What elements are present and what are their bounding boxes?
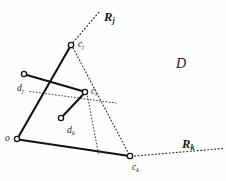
- label-ray-k-subscript: k: [191, 143, 195, 152]
- solid-lines-group: [18, 46, 130, 156]
- vertex-marker-cj: [68, 42, 73, 47]
- label-point-ci-subscript: i: [95, 90, 97, 97]
- label-ray-k: Rk: [182, 138, 194, 151]
- segment-o-cj: [18, 46, 71, 139]
- label-region-d: D: [176, 57, 186, 71]
- ray-k-dotted-extension: [131, 149, 223, 157]
- vertex-marker-dk: [58, 115, 63, 120]
- label-point-dj-subscript: j: [22, 87, 24, 94]
- label-point-o: o: [5, 134, 10, 144]
- label-region-d-base: D: [176, 56, 186, 71]
- label-point-dk: dk: [67, 126, 75, 136]
- label-point-o-base: o: [5, 133, 10, 143]
- vertex-marker-dj: [21, 71, 26, 76]
- label-point-dk-subscript: k: [72, 129, 75, 136]
- label-ray-j: Rj: [104, 11, 115, 24]
- label-ray-j-base: R: [104, 10, 112, 24]
- ray-j-dotted-extension: [71, 12, 99, 45]
- label-ray-j-subscript: j: [113, 16, 115, 25]
- diagram-svg: [0, 0, 226, 181]
- vertex-marker-ck: [127, 153, 132, 158]
- label-point-dj: dj: [17, 84, 24, 94]
- vertex-marker-ci: [82, 89, 87, 94]
- label-point-ci: ci: [91, 87, 97, 97]
- label-point-cj: cj: [78, 40, 84, 50]
- figure-canvas: Rj Rk D cj ci ck dj dk o: [0, 0, 226, 181]
- ci-vertical-guide-line: [88, 96, 99, 154]
- segment-dj-ci: [25, 75, 84, 92]
- label-point-ck-subscript: k: [136, 166, 139, 173]
- label-point-ck: ck: [132, 163, 139, 173]
- label-ray-k-base: R: [182, 137, 190, 151]
- label-point-cj-subscript: j: [82, 43, 84, 50]
- segment-o-ck: [18, 140, 130, 157]
- vertex-marker-o: [14, 136, 19, 141]
